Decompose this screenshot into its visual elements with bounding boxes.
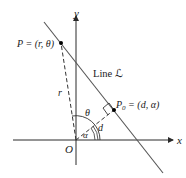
alpha-arc-inner	[91, 128, 95, 140]
point-P-label: P = (r, θ)	[16, 38, 55, 50]
line-L-label: Line ℒ	[93, 68, 123, 79]
alpha-label: α	[83, 130, 88, 140]
P0-main: P	[115, 99, 122, 110]
point-P	[59, 41, 63, 45]
point-P0-label: P0 = (d, α)	[115, 99, 160, 112]
P0-rest: = (d, α)	[126, 99, 160, 111]
y-axis-label: y	[73, 7, 79, 19]
r-segment	[61, 43, 76, 140]
x-axis-label: x	[176, 134, 182, 146]
polar-line-diagram: y x O P = (r, θ) Line ℒ P0 = (d, α) r d …	[0, 0, 186, 178]
theta-label: θ	[85, 107, 90, 118]
r-label: r	[58, 87, 62, 98]
d-label: d	[98, 122, 104, 133]
origin-label: O	[65, 143, 73, 155]
